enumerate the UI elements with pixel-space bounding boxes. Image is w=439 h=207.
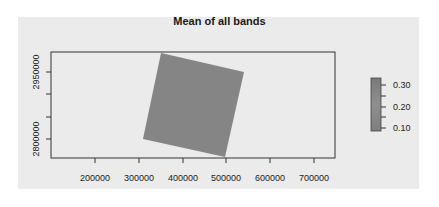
colorbar-label-030: 0.30 [393, 80, 411, 90]
colorbar-label-020: 0.20 [393, 102, 411, 112]
svg-text:500000: 500000 [211, 173, 241, 183]
colorbar-label-010: 0.10 [393, 123, 411, 133]
x-axis [95, 158, 314, 163]
colorbar [371, 78, 381, 131]
y-axis [46, 72, 51, 139]
svg-text:2950000: 2950000 [31, 54, 41, 89]
x-axis-labels: 200000 300000 400000 500000 600000 70000… [80, 173, 329, 183]
svg-text:700000: 700000 [299, 173, 329, 183]
y-axis-labels: 2800000 2950000 [31, 54, 41, 156]
svg-text:400000: 400000 [168, 173, 198, 183]
chart-canvas: 200000 300000 400000 500000 600000 70000… [0, 0, 439, 207]
raster-footprint [143, 53, 244, 157]
svg-text:200000: 200000 [80, 173, 110, 183]
colorbar-legend: 0.30 0.20 0.10 [371, 78, 411, 133]
svg-text:600000: 600000 [255, 173, 285, 183]
svg-text:300000: 300000 [124, 173, 154, 183]
svg-text:2800000: 2800000 [31, 121, 41, 156]
